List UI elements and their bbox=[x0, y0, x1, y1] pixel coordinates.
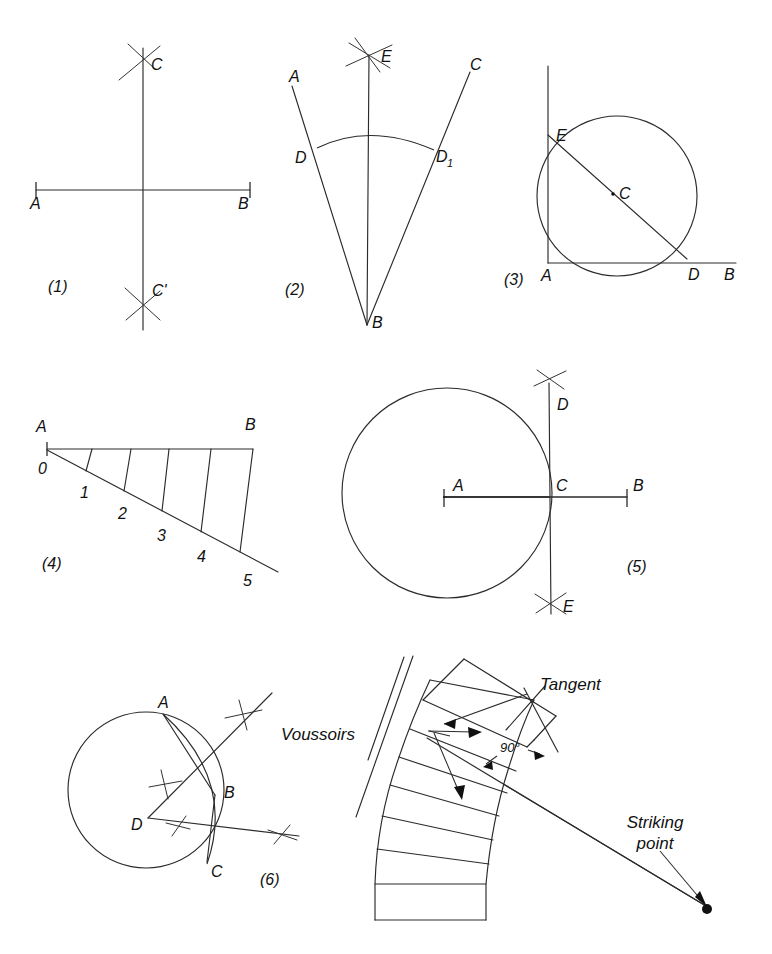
fig2-label-D: D bbox=[295, 149, 307, 166]
fig4-div-3: 3 bbox=[157, 527, 166, 544]
fig3-label-C: C bbox=[619, 185, 631, 202]
fig6-label-D: D bbox=[131, 816, 143, 833]
arch-tangent-left-line bbox=[368, 657, 404, 760]
fig6-construction-arc bbox=[163, 714, 215, 864]
arch-top-block-left bbox=[423, 659, 464, 700]
fig4-div-2: 2 bbox=[117, 505, 127, 522]
arch-radius-to-striking-point-2 bbox=[505, 785, 706, 906]
fig6-label-B: B bbox=[224, 784, 235, 801]
figure-4-group: A B 0 1 2 3 4 5 (4) bbox=[35, 416, 278, 589]
plate-drawing-canvas: A B C C' (1) A B C D D 1 E bbox=[0, 0, 772, 954]
figure-1-group: A B C C' (1) bbox=[29, 44, 250, 330]
fig1-number: (1) bbox=[48, 278, 68, 295]
arch-diagram-group: Tangent Voussoirs 90° Striking point bbox=[281, 656, 712, 920]
fig6-number: (6) bbox=[260, 871, 280, 888]
figure-6-group: A B C D (6) bbox=[68, 693, 299, 888]
fig2-arc-D-D1 bbox=[317, 135, 434, 150]
fig5-circle bbox=[342, 388, 552, 598]
fig4-div-4: 4 bbox=[197, 548, 206, 565]
arch-tangent-arrowhead bbox=[444, 719, 456, 729]
arch-joint-4 bbox=[390, 785, 499, 816]
fig1-label-A: A bbox=[29, 195, 41, 212]
fig5-label-D: D bbox=[557, 396, 569, 413]
arch-top-block-bottom bbox=[527, 740, 534, 747]
arch-label-voussoirs: Voussoirs bbox=[281, 725, 356, 744]
fig5-label-A: A bbox=[452, 477, 464, 494]
fig2-number: (2) bbox=[285, 281, 305, 298]
arch-voussoirs-arrowhead bbox=[454, 785, 465, 800]
fig2-label-E: E bbox=[381, 48, 392, 65]
fig4-label-B: B bbox=[245, 416, 256, 433]
fig6-cross-lower-b bbox=[172, 816, 186, 836]
figure-5-group: A C B D E (5) bbox=[342, 370, 647, 615]
fig3-number: (3) bbox=[504, 271, 524, 288]
fig4-div-0: 0 bbox=[38, 460, 47, 477]
arch-label-striking-point-line2: point bbox=[636, 834, 675, 853]
fig2-bisector-BE bbox=[367, 55, 369, 325]
arch-joint-3 bbox=[382, 816, 493, 840]
fig6-cross-mid-a bbox=[149, 781, 182, 787]
arch-joint-2 bbox=[377, 849, 489, 864]
fig5-line-DE bbox=[549, 383, 551, 614]
fig3-label-D: D bbox=[688, 266, 700, 283]
fig6-label-A: A bbox=[157, 694, 169, 711]
arch-intrados-curve bbox=[486, 700, 534, 920]
fig3-label-E: E bbox=[556, 127, 567, 144]
fig1-label-C: C bbox=[151, 56, 163, 73]
fig4-div-1: 1 bbox=[80, 484, 89, 501]
fig5-cross-D-b bbox=[537, 370, 564, 389]
fig5-label-B: B bbox=[633, 477, 644, 494]
fig3-label-B: B bbox=[724, 266, 735, 283]
fig5-cross-D-a bbox=[534, 371, 566, 386]
fig5-number: (5) bbox=[627, 558, 647, 575]
arch-striking-point-dot bbox=[702, 904, 712, 914]
constructions-plate: A B C C' (1) A B C D D 1 E bbox=[0, 0, 772, 954]
fig3-diameter-ED bbox=[548, 135, 687, 259]
fig6-label-C: C bbox=[211, 863, 223, 880]
figure-3-group: E C A D B (3) bbox=[504, 66, 736, 288]
fig4-label-A: A bbox=[35, 418, 47, 435]
fig2-label-B: B bbox=[372, 314, 383, 331]
arch-label-tangent: Tangent bbox=[540, 675, 602, 694]
fig4-transversal-2 bbox=[124, 449, 131, 491]
arch-striking-point-arrowhead bbox=[695, 891, 707, 907]
fig5-label-E: E bbox=[563, 598, 574, 615]
fig2-label-A: A bbox=[288, 68, 300, 85]
arch-tangent-left-line-2 bbox=[356, 656, 413, 817]
fig4-transversal-1 bbox=[86, 449, 92, 471]
arch-voussoirs-leader bbox=[434, 733, 459, 792]
fig3-centre-dot bbox=[611, 192, 615, 196]
fig4-transversal-5 bbox=[240, 449, 253, 552]
fig1-label-B: B bbox=[238, 195, 249, 212]
fig2-label-C: C bbox=[470, 56, 482, 73]
arch-label-striking-point-line1: Striking bbox=[627, 813, 684, 832]
fig2-label-D1-subscript: 1 bbox=[447, 157, 453, 169]
fig4-transversal-3 bbox=[162, 449, 169, 511]
fig3-label-A: A bbox=[540, 267, 552, 284]
fig4-div-5: 5 bbox=[243, 572, 252, 589]
fig2-ray-BC bbox=[367, 72, 470, 325]
arch-label-angle: 90° bbox=[500, 740, 520, 755]
fig4-number: (4) bbox=[42, 555, 62, 572]
arch-tangent-arrowhead-2 bbox=[468, 727, 482, 738]
fig5-label-C: C bbox=[556, 477, 568, 494]
fig4-transversal-4 bbox=[201, 449, 211, 532]
arch-striking-point-leader bbox=[660, 851, 702, 901]
arch-angle-arrow-right bbox=[534, 751, 545, 760]
fig2-cross-E-c bbox=[355, 38, 380, 72]
fig1-label-Cprime: C' bbox=[152, 282, 168, 299]
figure-2-group: A B C D D 1 E (2) bbox=[285, 38, 482, 331]
fig6-circle bbox=[68, 712, 224, 868]
arch-tangent-leader-2 bbox=[428, 731, 474, 732]
